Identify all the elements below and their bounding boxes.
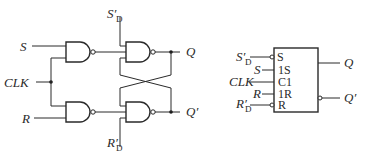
input-label-clk: CLK <box>4 75 30 90</box>
nand-gate-g1 <box>66 42 90 62</box>
gate-level-circuit: S CLK R S′ D Q Q′ <box>4 6 198 153</box>
pin-bubble-preset <box>270 55 274 59</box>
pin-ext-label-preset-sub: D <box>245 57 252 67</box>
nand-gate-g3 <box>126 42 150 62</box>
pin-ext-label-r: R <box>252 86 261 101</box>
output-label-q: Q <box>186 44 196 59</box>
nand-gate-g4 <box>126 102 150 122</box>
input-label-s: S <box>20 39 27 54</box>
pin-bubble-qprime <box>318 96 322 100</box>
circuit-diagram: S CLK R S′ D Q Q′ <box>0 0 365 161</box>
nand-bubble-g2 <box>91 110 95 114</box>
logic-symbol: S′ D S S 1S CLK C1 R 1R R′ D R Q Q′ <box>229 48 356 114</box>
output-label-q-symbol: Q <box>344 55 354 70</box>
pin-bubble-clear <box>270 103 274 107</box>
output-label-qprime: Q′ <box>186 104 198 119</box>
output-label-qprime-symbol: Q′ <box>344 90 356 105</box>
nand-gate-g2 <box>66 102 90 122</box>
input-label-r: R <box>21 111 30 126</box>
nand-bubble-g3 <box>151 50 155 54</box>
pin-ext-label-s: S <box>254 62 261 77</box>
pin-inner-label-r: R <box>278 98 286 112</box>
nand-bubble-g4 <box>151 110 155 114</box>
clear-label-subscript: D <box>116 143 123 153</box>
nand-bubble-g1 <box>91 50 95 54</box>
pin-inner-label-s: S <box>277 50 284 64</box>
